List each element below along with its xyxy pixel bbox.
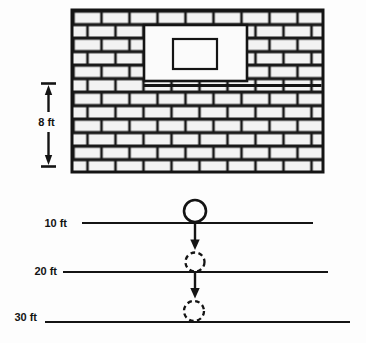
depth-label-30ft: 30 ft bbox=[14, 311, 37, 323]
depth-lines-group: 10 ft 20 ft 30 ft bbox=[14, 217, 350, 323]
fall-arrow-1-head bbox=[190, 240, 199, 251]
window-inner-pane bbox=[173, 39, 217, 69]
fall-arrow-2-head bbox=[190, 288, 199, 299]
depth-label-20ft: 20 ft bbox=[34, 265, 57, 277]
ball-ghost-20ft bbox=[186, 253, 205, 272]
depth-label-10ft: 10 ft bbox=[44, 217, 67, 229]
wall-height-dimension: 8 ft bbox=[38, 84, 56, 167]
physics-diagram-page: 8 ft 10 ft 20 ft 30 ft bbox=[0, 0, 366, 343]
brick-wall-group bbox=[72, 10, 323, 172]
physics-diagram: 8 ft 10 ft 20 ft 30 ft bbox=[0, 0, 366, 343]
falling-ball-group bbox=[184, 200, 206, 321]
wall-height-label: 8 ft bbox=[38, 116, 55, 128]
ball-solid bbox=[184, 200, 206, 222]
ball-ghost-30ft bbox=[184, 301, 204, 321]
